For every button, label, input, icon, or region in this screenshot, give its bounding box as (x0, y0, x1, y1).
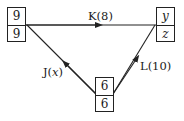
edge-j-label-prefix: J( (43, 65, 52, 79)
edge-j-arrow (27, 25, 96, 94)
edge-l-label: L(10) (140, 60, 171, 72)
node-left-top-value: 9 (8, 8, 25, 26)
edge-k-label: K(8) (88, 10, 113, 22)
node-right-top-value: y (157, 8, 174, 26)
edge-j-label-suffix: ) (59, 65, 64, 79)
node-bottom-bottom-value: 6 (96, 96, 113, 113)
edge-j-label: J(x) (43, 66, 63, 78)
node-right-bottom-value: z (157, 26, 174, 43)
node-bottom: 6 6 (95, 77, 114, 112)
node-right: y z (156, 7, 175, 42)
node-left-bottom-value: 9 (8, 26, 25, 43)
node-bottom-top-value: 6 (96, 78, 113, 96)
node-left: 9 9 (7, 7, 26, 42)
